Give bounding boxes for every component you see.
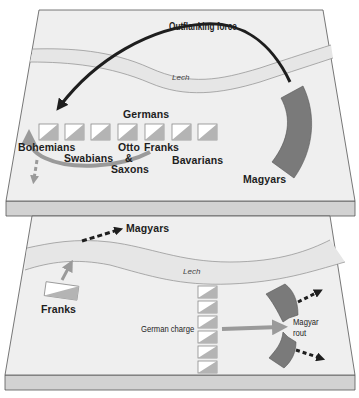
- german-unit: [198, 124, 217, 140]
- german-unit: [198, 361, 217, 373]
- bottom-plane-edge: [5, 375, 355, 390]
- franks-label-bottom: Franks: [41, 304, 76, 315]
- german-line-top: [39, 124, 217, 140]
- german-unit: [198, 301, 217, 313]
- river-label-bottom: Lech: [183, 268, 200, 276]
- german-unit: [65, 124, 84, 140]
- german-unit: [172, 124, 191, 140]
- river-label-top: Lech: [172, 74, 189, 82]
- german-unit: [39, 124, 58, 140]
- outflanking-force-label: Outflanking force: [169, 22, 237, 32]
- germans-label: Germans: [123, 109, 169, 120]
- magyars-label-bottom: Magyars: [126, 223, 169, 234]
- german-unit: [198, 316, 217, 328]
- magyars-label-top: Magyars: [243, 174, 286, 185]
- franks-label-top: Franks: [144, 142, 179, 153]
- battle-of-lechfeld-diagram: Outflanking force Lech Germans Bohemians…: [0, 0, 359, 398]
- bavarians-label: Bavarians: [172, 155, 223, 166]
- top-plane-edge: [6, 201, 355, 216]
- german-unit: [198, 346, 217, 358]
- german-unit: [91, 124, 110, 140]
- magyar-rout-label-line2: rout: [293, 329, 306, 338]
- german-unit: [145, 124, 164, 140]
- german-charge-arrow: [222, 327, 280, 329]
- bohemians-label: Bohemians: [18, 142, 76, 153]
- swabians-label: Swabians: [64, 153, 113, 164]
- ampersand-label: &: [125, 153, 133, 164]
- magyar-rout-label-line1: Magyar: [293, 318, 319, 327]
- otto-label: Otto: [118, 142, 140, 153]
- diagram-canvas: [0, 0, 359, 398]
- saxons-label: Saxons: [111, 164, 149, 175]
- german-unit: [198, 331, 217, 343]
- german-charge-label: German charge: [141, 325, 194, 334]
- german-unit: [198, 286, 217, 298]
- german-unit: [118, 124, 137, 140]
